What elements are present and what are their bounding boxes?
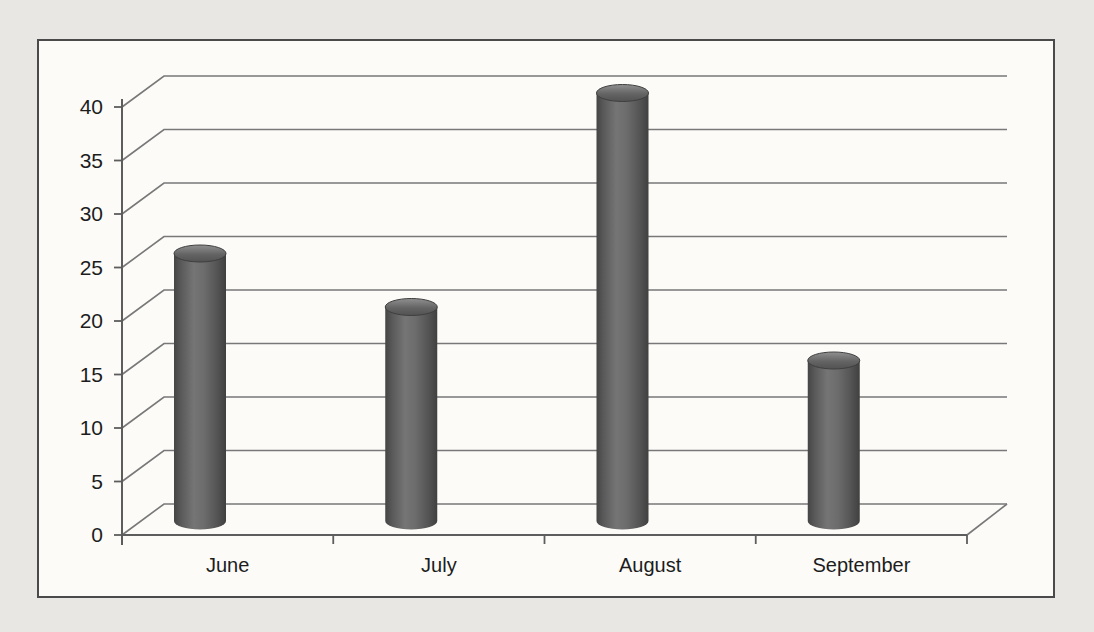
category-label-september: September — [812, 554, 910, 576]
cylinder-bar-chart: 0510152025303540JuneJulyAugustSeptember — [39, 41, 1053, 596]
y-tick-label-5: 5 — [91, 470, 103, 493]
category-label-june: June — [206, 554, 249, 576]
y-tick-label-30: 30 — [80, 202, 103, 225]
bar-top-september — [808, 352, 860, 369]
floor-right-edge — [967, 504, 1007, 535]
y-tick-label-20: 20 — [80, 309, 103, 332]
bar-body-june — [174, 254, 226, 530]
gridline-40 — [122, 76, 1007, 107]
bar-top-august — [597, 85, 649, 102]
page-background: 0510152025303540JuneJulyAugustSeptember — [0, 0, 1094, 632]
gridline-10 — [122, 397, 1007, 428]
category-label-august: August — [619, 554, 682, 576]
y-tick-label-40: 40 — [80, 95, 103, 118]
bar-top-june — [174, 245, 226, 262]
y-tick-label-15: 15 — [80, 363, 103, 386]
gridline-20 — [122, 290, 1007, 321]
bar-body-july — [385, 307, 437, 530]
gridline-15 — [122, 344, 1007, 375]
y-tick-label-35: 35 — [80, 149, 103, 172]
bar-body-september — [808, 361, 860, 530]
gridline-30 — [122, 183, 1007, 214]
y-tick-label-0: 0 — [91, 523, 103, 546]
gridline-25 — [122, 237, 1007, 268]
gridline-0 — [122, 504, 1007, 535]
y-tick-label-10: 10 — [80, 416, 103, 439]
y-tick-label-25: 25 — [80, 256, 103, 279]
gridline-35 — [122, 130, 1007, 161]
bar-top-july — [385, 299, 437, 316]
chart-frame: 0510152025303540JuneJulyAugustSeptember — [37, 39, 1055, 598]
gridline-5 — [122, 451, 1007, 482]
category-label-july: July — [421, 554, 457, 576]
bar-body-august — [597, 93, 649, 530]
